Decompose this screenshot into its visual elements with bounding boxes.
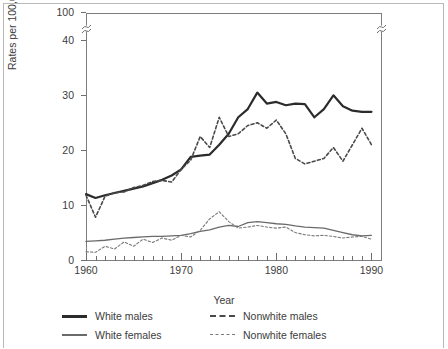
x-axis-tick <box>124 256 125 261</box>
x-axis-tick <box>371 253 372 261</box>
x-axis-tick <box>286 256 287 261</box>
x-axis-tick <box>86 253 87 261</box>
x-axis-tick <box>96 256 97 261</box>
y-axis-tick-label: 0 <box>40 255 74 266</box>
y-axis-tick <box>81 95 86 96</box>
axis-break-left <box>81 21 92 37</box>
x-axis-tick <box>257 256 258 261</box>
plot-area: 010203040100 <box>86 13 382 261</box>
x-axis-tick <box>352 256 353 261</box>
x-axis-tick <box>200 256 201 261</box>
x-axis-tick-label: 1980 <box>256 265 296 276</box>
legend-swatch-icon <box>210 329 235 341</box>
legend-label: Nonwhite males <box>243 310 318 322</box>
x-axis-tick <box>210 256 211 261</box>
x-axis-tick <box>134 256 135 261</box>
x-axis-tick <box>191 256 192 261</box>
x-axis-tick <box>172 256 173 261</box>
chart-legend: White malesNonwhite malesWhite femalesNo… <box>62 310 392 348</box>
x-axis-tick <box>238 256 239 261</box>
x-axis-tick <box>181 253 182 261</box>
x-axis-tick <box>153 256 154 261</box>
legend-swatch-icon <box>62 310 87 322</box>
legend-label: Nonwhite females <box>243 329 326 341</box>
legend-label: White males <box>95 310 153 322</box>
x-axis-tick <box>162 256 163 261</box>
x-axis-tick <box>143 256 144 261</box>
series-line-white-females <box>86 222 371 242</box>
x-axis-tick <box>305 256 306 261</box>
x-axis-tick-label: 1960 <box>66 265 106 276</box>
x-axis-tick <box>333 256 334 261</box>
y-axis-tick-label: 100 <box>40 7 74 18</box>
x-axis-tick <box>343 256 344 261</box>
y-axis-tick <box>81 150 86 151</box>
x-axis-tick <box>105 256 106 261</box>
x-axis-tick <box>248 256 249 261</box>
series-line-white-males <box>86 93 371 198</box>
legend-item-nonwhite-males: Nonwhite males <box>210 310 390 322</box>
y-axis-label-text: Rates per 100,000 population <box>6 0 18 70</box>
x-axis-tick <box>362 256 363 261</box>
y-axis-tick-label: 10 <box>40 200 74 211</box>
y-axis-tick-label: 40 <box>40 35 74 46</box>
legend-item-white-males: White males <box>62 310 210 322</box>
x-axis-tick <box>229 256 230 261</box>
y-axis-tick <box>81 40 86 41</box>
x-axis-tick <box>324 256 325 261</box>
y-axis-tick <box>81 205 86 206</box>
x-axis-tick <box>314 256 315 261</box>
legend-item-white-females: White females <box>62 329 210 341</box>
x-axis-tick-label: 1970 <box>161 265 201 276</box>
legend-label: White females <box>95 329 162 341</box>
legend-swatch-icon <box>210 310 235 322</box>
y-axis-tick-label: 30 <box>40 90 74 101</box>
x-axis-tick <box>295 256 296 261</box>
x-axis-tick <box>219 256 220 261</box>
y-axis-tick <box>81 12 86 13</box>
figure-panel: Rates per 100,000 population 01020304010… <box>0 0 448 349</box>
x-axis-tick-label: 1990 <box>351 265 391 276</box>
x-axis-tick <box>115 256 116 261</box>
series-layer <box>86 13 382 261</box>
legend-row: White malesNonwhite males <box>62 310 392 322</box>
legend-item-nonwhite-females: Nonwhite females <box>210 329 390 341</box>
x-axis-tick <box>267 256 268 261</box>
legend-swatch-icon <box>62 329 87 341</box>
series-line-nonwhite-females <box>86 212 371 253</box>
y-axis-label: Rates per 100,000 population <box>6 0 18 70</box>
legend-row: White femalesNonwhite females <box>62 329 392 341</box>
y-axis-tick-label: 20 <box>40 145 74 156</box>
x-axis-label: Year <box>0 294 448 306</box>
x-axis-tick <box>276 253 277 261</box>
axis-break-right <box>376 21 387 37</box>
